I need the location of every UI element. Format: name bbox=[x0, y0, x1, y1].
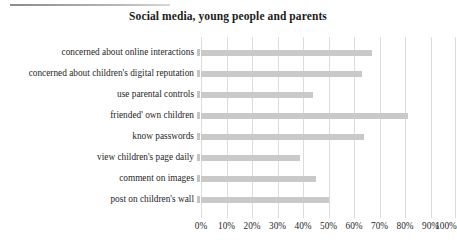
bar-row bbox=[201, 84, 456, 105]
axis-tick-mark bbox=[197, 133, 200, 140]
category-label: use parental controls bbox=[117, 84, 194, 105]
bar bbox=[201, 176, 316, 182]
axis-tick-mark bbox=[197, 70, 200, 77]
x-tick-label: 50% bbox=[320, 221, 337, 231]
bar-row bbox=[201, 126, 456, 147]
header-divider bbox=[10, 4, 170, 6]
x-tick-label: 80% bbox=[396, 221, 413, 231]
x-tick-label: 10% bbox=[218, 221, 235, 231]
bar bbox=[201, 71, 362, 77]
category-label: comment on images bbox=[119, 168, 194, 189]
bar-row bbox=[201, 105, 456, 126]
category-label: concerned about online interactions bbox=[62, 42, 194, 63]
x-axis-tick-labels: 0%10%20%30%40%50%60%70%80%90%100% bbox=[0, 221, 456, 239]
bar-series bbox=[201, 37, 456, 218]
axis-tick-mark bbox=[197, 196, 200, 203]
bar bbox=[201, 155, 300, 161]
bar bbox=[201, 92, 313, 98]
bar-row bbox=[201, 42, 456, 63]
axis-tick-mark bbox=[197, 91, 200, 98]
bar-row bbox=[201, 63, 456, 84]
x-tick-label: 20% bbox=[243, 221, 260, 231]
bar bbox=[201, 50, 372, 56]
category-label: post on children's wall bbox=[110, 189, 194, 210]
x-tick-label: 0% bbox=[195, 221, 207, 231]
bar-row bbox=[201, 168, 456, 189]
x-tick-label: 70% bbox=[371, 221, 388, 231]
bar bbox=[201, 113, 408, 119]
axis-tick-mark bbox=[197, 49, 200, 56]
x-tick-label: 60% bbox=[345, 221, 362, 231]
chart-title: Social media, young people and parents bbox=[0, 10, 456, 22]
x-tick-label: 40% bbox=[294, 221, 311, 231]
bar-row bbox=[201, 147, 456, 168]
category-label: view children's page daily bbox=[97, 147, 194, 168]
axis-tick-mark bbox=[197, 154, 200, 161]
bar bbox=[201, 197, 329, 203]
category-label: know passwords bbox=[132, 126, 194, 147]
y-axis-category-labels: concerned about online interactionsconce… bbox=[0, 37, 197, 218]
axis-tick-mark bbox=[197, 112, 200, 119]
x-tick-label: 30% bbox=[269, 221, 286, 231]
axis-tick-mark bbox=[197, 175, 200, 182]
bar bbox=[201, 134, 364, 140]
category-label: friended' own children bbox=[110, 105, 194, 126]
bar-row bbox=[201, 189, 456, 210]
plot-area bbox=[201, 37, 456, 218]
x-tick-label: 100% bbox=[435, 221, 457, 231]
category-label: concerned about children's digital reput… bbox=[29, 63, 194, 84]
